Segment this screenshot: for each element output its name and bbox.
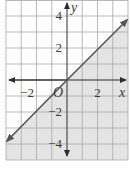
- origin-label: O: [53, 85, 63, 100]
- y-tick-label: 4: [56, 8, 63, 23]
- y-tick-label: 2: [56, 40, 63, 55]
- y-tick-label: −2: [48, 104, 62, 119]
- x-tick-label: −2: [20, 85, 34, 100]
- x-tick-label: 2: [94, 85, 101, 100]
- coordinate-plane: −2 2 4 2 −2 −4 O x y: [0, 0, 131, 169]
- y-axis-label: y: [69, 0, 78, 15]
- y-tick-label: −4: [48, 136, 62, 151]
- x-axis-label: x: [118, 85, 126, 100]
